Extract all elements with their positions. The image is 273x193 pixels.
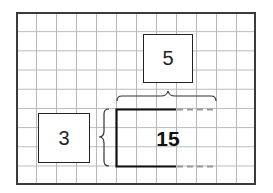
area-model-lines <box>0 0 273 193</box>
left-brace-icon <box>99 109 109 166</box>
factor-top-label: 5 <box>162 47 173 70</box>
factor-left-box: 3 <box>38 113 90 163</box>
factor-left-label: 3 <box>58 127 69 150</box>
factor-top-box: 5 <box>143 34 193 83</box>
product-label: 15 <box>148 127 188 151</box>
top-brace-icon <box>117 91 216 101</box>
